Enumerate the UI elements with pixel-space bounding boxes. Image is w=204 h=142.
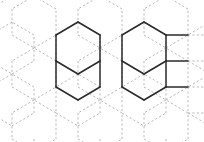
hexagonal-lattice-figure xyxy=(0,0,204,142)
figure-background xyxy=(0,0,204,142)
lattice-canvas xyxy=(0,0,204,142)
